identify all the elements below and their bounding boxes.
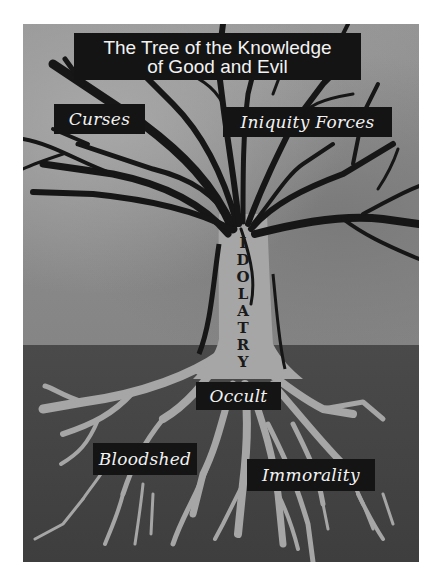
tree-illustration: The Tree of the Knowledge of Good and Ev… bbox=[23, 24, 419, 562]
title-line-1: The Tree of the Knowledge bbox=[103, 38, 331, 57]
trunk-letter: O bbox=[236, 269, 249, 286]
label-curses: Curses bbox=[54, 104, 145, 134]
title-line-2: of Good and Evil bbox=[147, 57, 287, 76]
label-bloodshed: Bloodshed bbox=[93, 443, 197, 475]
trunk-letter: Y bbox=[238, 354, 249, 371]
title-box: The Tree of the Knowledge of Good and Ev… bbox=[74, 33, 361, 80]
trunk-letter: I bbox=[239, 235, 246, 252]
trunk-letter: R bbox=[237, 337, 249, 354]
label-occult: Occult bbox=[196, 382, 281, 410]
trunk-letter: T bbox=[237, 320, 248, 337]
trunk-letter: A bbox=[237, 303, 249, 320]
label-iniquity-forces: Iniquity Forces bbox=[223, 107, 392, 137]
trunk-letter: L bbox=[238, 286, 249, 303]
trunk-label-idolatry: I D O L A T R Y bbox=[235, 235, 251, 371]
label-immorality: Immorality bbox=[247, 459, 375, 491]
trunk-letter: D bbox=[236, 252, 249, 269]
